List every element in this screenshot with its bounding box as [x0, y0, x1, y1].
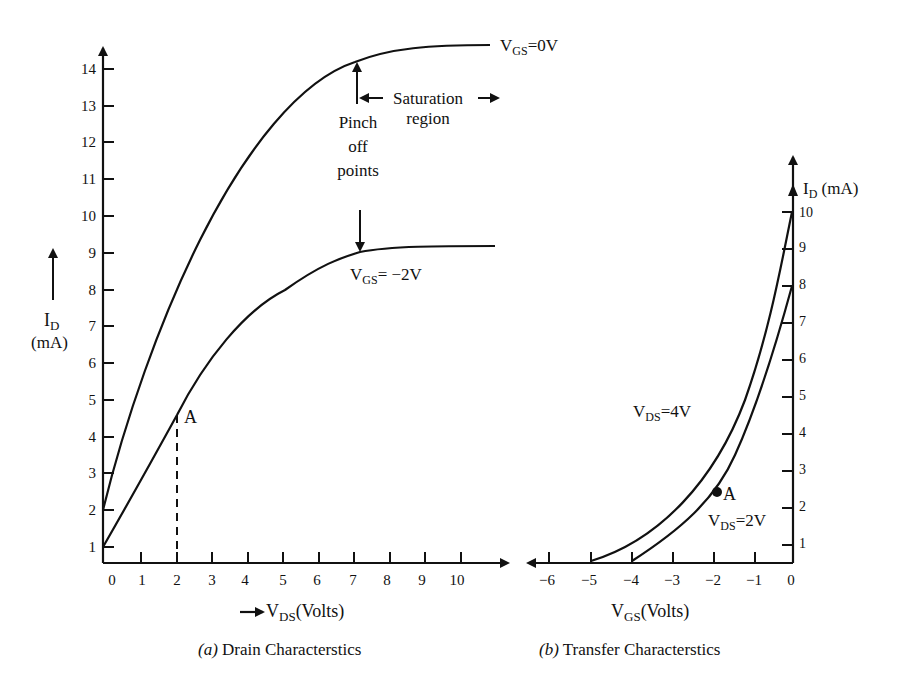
y-tick-label: 2 [89, 502, 97, 518]
x-tick-label: 7 [349, 572, 357, 588]
y-tick-label: 2 [799, 499, 806, 514]
right-y-axis-label: ID (mA) [803, 179, 858, 201]
x-tick-label: 8 [383, 572, 391, 588]
left-y-tick-labels: 1 2 3 4 5 6 7 8 9 10 11 12 13 14 [81, 61, 97, 555]
x-tick-label: 0 [108, 572, 116, 588]
curve-vgs-minus-2v [103, 246, 495, 547]
y-tick-label: 10 [799, 205, 813, 220]
y-tick-label: 4 [799, 425, 806, 440]
right-y-axis-inner-arrow [788, 184, 798, 196]
left-y-axis-label: ID [44, 310, 59, 333]
y-tick-label: 1 [89, 539, 97, 555]
x-tick-label: 5 [279, 572, 287, 588]
x-tick-label: −1 [746, 572, 762, 588]
svg-text:Saturation: Saturation [393, 89, 463, 108]
x-tick-label: 2 [173, 572, 181, 588]
x-tick-label: 3 [208, 572, 216, 588]
point-a-label: A [723, 484, 736, 504]
y-tick-label: 8 [799, 277, 806, 292]
right-x-ticks [549, 552, 755, 563]
y-tick-label: 6 [89, 355, 97, 371]
figure-canvas: 1 2 3 4 5 6 7 8 9 10 11 12 13 14 [0, 0, 899, 690]
y-tick-label: 4 [89, 429, 97, 445]
right-y-ticks [782, 212, 793, 545]
x-tick-label: 4 [241, 572, 249, 588]
left-x-ticks [141, 552, 461, 563]
left-x-axis-label: VDS(Volts) [266, 601, 344, 624]
y-tick-label: 13 [81, 98, 96, 114]
point-a-dot [712, 487, 722, 497]
x-tick-label: −6 [539, 572, 555, 588]
y-tick-label: 14 [81, 61, 97, 77]
y-tick-label: 10 [81, 208, 96, 224]
y-tick-label: 3 [89, 465, 97, 481]
curve-label-vds-2v: VDS=2V [708, 511, 767, 533]
right-x-tick-labels: −6 −5 −4 −3 −2 −1 0 [539, 572, 795, 588]
point-a-label: A [184, 407, 197, 427]
left-caption: (a) Drain Characterstics [198, 640, 361, 659]
left-y-axis-unit: (mA) [31, 333, 68, 352]
y-tick-label: 11 [82, 171, 96, 187]
curve-label-vds-4v: VDS=4V [633, 402, 692, 424]
y-tick-label: 6 [799, 351, 806, 366]
right-y-tick-labels: 1 2 3 4 5 6 7 8 9 10 [799, 205, 813, 551]
svg-text:region: region [406, 109, 450, 128]
y-tick-label: 5 [89, 392, 97, 408]
x-tick-label: 0 [787, 572, 795, 588]
svg-text:Pinch: Pinch [339, 113, 378, 132]
x-tick-label: −4 [623, 572, 639, 588]
pinch-off-label: Pinch off points [337, 113, 379, 180]
svg-text:off: off [348, 137, 368, 156]
x-tick-label: 9 [418, 572, 426, 588]
x-tick-label: −2 [705, 572, 721, 588]
curve-label-vgs-minus-2v: VGS= −2V [350, 265, 423, 287]
right-x-axis-label: VGS(Volts) [611, 601, 689, 624]
x-tick-label: −5 [581, 572, 597, 588]
y-tick-label: 5 [799, 388, 806, 403]
right-caption: (b) Transfer Characterstics [539, 640, 720, 659]
y-tick-label: 9 [799, 240, 806, 255]
drain-characteristics-chart: 1 2 3 4 5 6 7 8 9 10 11 12 13 14 [31, 36, 559, 659]
y-tick-label: 3 [799, 462, 806, 477]
y-tick-label: 1 [799, 536, 806, 551]
y-tick-label: 9 [89, 245, 97, 261]
y-tick-label: 8 [89, 282, 97, 298]
saturation-region-label: Saturation region [393, 89, 463, 128]
y-tick-label: 12 [81, 134, 96, 150]
transfer-characteristics-chart: 1 2 3 4 5 6 7 8 9 10 −6 −5 −4 −3 −2 −1 [528, 157, 858, 659]
x-tick-label: 10 [450, 572, 465, 588]
left-x-tick-labels: 0 1 2 3 4 5 6 7 8 9 10 [108, 572, 464, 588]
x-tick-label: 1 [138, 572, 146, 588]
x-tick-label: −3 [664, 572, 680, 588]
svg-text:points: points [337, 161, 379, 180]
y-tick-label: 7 [89, 318, 97, 334]
y-tick-label: 7 [799, 314, 806, 329]
x-tick-label: 6 [313, 572, 321, 588]
curve-label-vgs-0v: VGS=0V [500, 36, 559, 58]
